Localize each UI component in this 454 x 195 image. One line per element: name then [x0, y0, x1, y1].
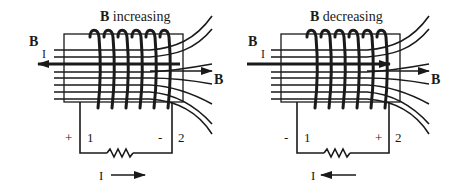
b-right-label: B [431, 72, 440, 87]
i-label: I [261, 47, 265, 61]
terminal-1: 1 [304, 130, 311, 145]
current-label: I [99, 168, 103, 183]
diagram-b-increasing: B increasing B I B + 1 - 2 I [29, 9, 223, 183]
polarity-left: - [284, 130, 288, 145]
polarity-right: + [375, 130, 382, 145]
induction-diagrams: B increasing B I B + 1 - 2 I B decreasin… [0, 0, 454, 195]
b-left-label: B [29, 34, 38, 49]
b-right-label: B [214, 72, 223, 87]
current-label: I [311, 168, 315, 183]
diagram-b-decreasing: B decreasing B I B - 1 + 2 I [247, 9, 440, 183]
polarity-left: + [65, 130, 72, 145]
diagram-title: B decreasing [310, 9, 383, 24]
terminal-1: 1 [87, 130, 94, 145]
terminal-2: 2 [395, 130, 402, 145]
terminal-2: 2 [178, 130, 185, 145]
diagram-title: B increasing [100, 9, 170, 24]
b-left-label: B [248, 34, 257, 49]
polarity-right: - [158, 130, 162, 145]
i-label: I [42, 47, 46, 61]
